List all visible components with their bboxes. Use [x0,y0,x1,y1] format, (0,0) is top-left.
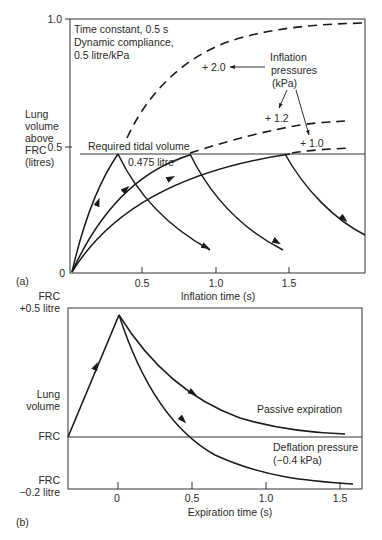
panel-b-label: (b) [16,516,29,528]
expiration-2 [190,154,283,250]
deflation-pressure-label: Deflation pressure (−0.4 kPa) [273,441,358,466]
pressure-title-3: (kPa) [272,77,297,89]
passive-expiration-label: Passive expiration [257,403,342,415]
ytick-frc: FRC [38,430,60,442]
pressure-2kpa: + 2.0 [202,61,226,73]
xtick-15: 1.5 [282,277,297,289]
y-axis-label: Lung volume [26,388,60,412]
svg-text:0.5 litre/kPa: 0.5 litre/kPa [74,49,130,61]
expiration-3 [285,154,365,235]
ytick-top: FRC +0.5 litre [19,290,60,314]
svg-text:above: above [25,132,54,144]
svg-text:Deflation pressure: Deflation pressure [273,441,358,453]
svg-text:volume: volume [25,120,59,132]
inflation-ramp [68,315,119,437]
xtick-0: 0 [114,492,120,504]
svg-text:FRC: FRC [25,144,47,156]
inflation-1kpa [72,154,290,272]
svg-text:+0.5 litre: +0.5 litre [19,302,60,314]
x-axis-label: Inflation time (s) [181,290,256,302]
xtick-10: 1.0 [259,492,274,504]
xtick-10: 1.0 [209,277,224,289]
pressure-12kpa: + 1.2 [265,112,289,124]
ytick-1: 1.0 [47,13,62,25]
svg-text:FRC: FRC [38,290,60,302]
svg-text:Dynamic compliance,: Dynamic compliance, [74,36,174,48]
svg-text:Lung: Lung [25,108,49,120]
y-axis-label: Lung volume above FRC (litres) [25,108,59,168]
panel-b: FRC +0.5 litre Lung volume FRC FRC −0.2 … [16,290,362,528]
expiration-1 [118,154,210,250]
inflation-2kpa [72,154,118,272]
figure: 1.0 0.5 0 0.5 1.0 1.5 Inflation time (s)… [0,0,382,540]
xtick-05: 0.5 [185,492,200,504]
pressure-1kpa: + 1.0 [300,137,324,149]
xtick-05: 0.5 [135,277,150,289]
xtick-15: 1.5 [333,492,348,504]
required-tidal-volume-label: Required tidal volume [88,140,190,152]
panel-a: 1.0 0.5 0 0.5 1.0 1.5 Inflation time (s)… [16,13,365,302]
svg-text:FRC: FRC [38,474,60,486]
svg-text:volume: volume [26,400,60,412]
x-axis-label: Expiration time (s) [188,506,273,518]
svg-text:−0.2 litre: −0.2 litre [19,486,60,498]
inflation-12kpa [72,155,190,272]
svg-text:Lung: Lung [37,388,61,400]
svg-text:(litres): (litres) [25,156,54,168]
svg-text:(−0.4 kPa): (−0.4 kPa) [273,454,322,466]
parameter-note: Time constant, 0.5 s Dynamic compliance,… [74,23,174,61]
panel-a-label: (a) [16,275,29,287]
passive-expiration-curve [119,315,345,434]
ytick-bottom: FRC −0.2 litre [19,474,60,498]
pressure-title-1: Inflation [270,51,307,63]
svg-text:Time constant, 0.5 s: Time constant, 0.5 s [74,23,168,35]
ytick-0: 0 [59,267,65,279]
pressure-title-2: pressures [271,64,317,76]
required-tidal-volume-value: 0.475 litre [128,156,174,168]
